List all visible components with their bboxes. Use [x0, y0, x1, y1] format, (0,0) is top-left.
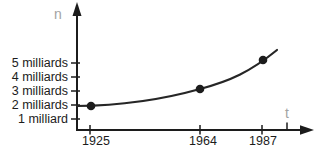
y-tick-label-5-milliards: 5 milliards — [0, 56, 68, 70]
population-growth-chart: n t 5 milliards 4 milliards 3 milliards … — [0, 0, 328, 161]
x-axis-arrow-icon — [300, 125, 314, 135]
population-curve — [77, 50, 277, 106]
x-tick-label-1964: 1964 — [175, 134, 231, 148]
data-point-1987 — [259, 56, 268, 65]
y-tick-label-4-milliards: 4 milliards — [0, 70, 68, 84]
data-point-1925 — [87, 102, 96, 111]
y-axis-label: n — [54, 7, 62, 21]
data-point-1964 — [196, 85, 205, 94]
y-tick-label-3-milliards: 3 milliards — [0, 84, 68, 98]
x-axis-label: t — [285, 106, 289, 120]
y-axis-arrow-icon — [73, 2, 82, 16]
y-tick-label-1-milliard: 1 milliard — [0, 112, 68, 126]
x-tick-label-1987: 1987 — [235, 134, 291, 148]
x-tick-label-1925: 1925 — [68, 134, 124, 148]
y-tick-label-2-milliards: 2 milliards — [0, 98, 68, 112]
